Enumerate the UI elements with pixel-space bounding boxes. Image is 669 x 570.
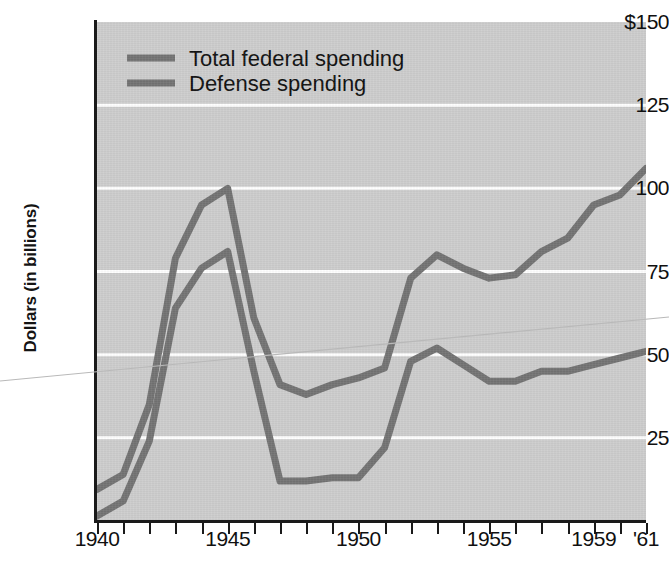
series-line-defense-spending (97, 252, 646, 516)
y-tick-label: $150 (583, 11, 669, 32)
y-axis-line (94, 20, 97, 523)
x-tickmark (411, 523, 413, 534)
plot-area: Total federal spendingDefense spending (97, 22, 646, 521)
y-tick-label: 25 (583, 427, 669, 448)
x-tickmark (123, 523, 125, 534)
legend-label: Total federal spending (189, 46, 404, 71)
x-tickmark (254, 523, 256, 534)
x-tick-label: 1940 (71, 528, 123, 549)
x-tickmark (306, 523, 308, 534)
plot-canvas: Total federal spendingDefense spending (97, 22, 646, 521)
y-tick-label: 75 (583, 261, 669, 282)
legend-label: Defense spending (189, 71, 366, 96)
legend-item-defense-spending: Defense spending (127, 71, 366, 96)
x-tick-label: '61 (630, 528, 662, 549)
x-tickmark (385, 523, 387, 534)
x-tick-label: 1950 (332, 528, 384, 549)
series-line-total-federal-spending (97, 168, 646, 489)
y-tick-label: 100 (583, 177, 669, 198)
legend-item-total-federal-spending: Total federal spending (127, 46, 404, 71)
x-tick-label: 1959 (568, 528, 620, 549)
x-tickmark (149, 523, 151, 534)
x-tickmark (280, 523, 282, 534)
x-tickmark (541, 523, 543, 534)
y-tick-label: 50 (583, 344, 669, 365)
y-axis-title: Dollars (in billions) (21, 163, 41, 393)
x-tickmark (620, 523, 622, 534)
x-tick-label: 1945 (202, 528, 254, 549)
x-tickmark (437, 523, 439, 534)
x-tickmark (515, 523, 517, 534)
x-tick-label: 1955 (463, 528, 515, 549)
x-tickmark (175, 523, 177, 534)
y-tick-label: 125 (583, 94, 669, 115)
spending-line-chart: Total federal spendingDefense spending D… (0, 0, 669, 570)
